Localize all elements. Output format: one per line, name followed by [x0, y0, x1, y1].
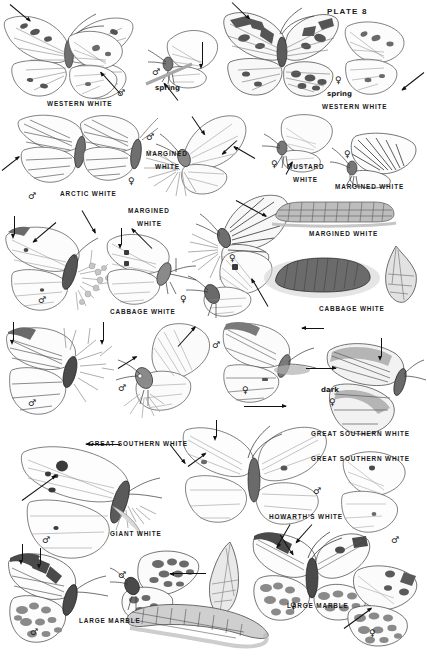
- species-label: GREAT SOUTHERN WHITE: [311, 455, 410, 462]
- figure-great-southern-white-female: [216, 320, 332, 410]
- sex-symbol-male: ♂: [117, 89, 125, 98]
- sex-symbol-male: ♂: [118, 384, 126, 393]
- species-label: ARCTIC WHITE: [60, 190, 117, 197]
- sex-symbol-male: ♂: [28, 192, 36, 201]
- species-label: GIANT WHITE: [110, 530, 162, 537]
- leader-arrow-down: [121, 228, 122, 244]
- figure-great-southern-white-dark-female: [320, 330, 426, 440]
- species-label: WHITE: [137, 220, 162, 227]
- sex-symbol-male: ♂: [152, 68, 160, 77]
- figure-great-southern-white-male-on-flower: [4, 320, 114, 420]
- species-label: LARGE MARBLE: [79, 617, 141, 624]
- species-label: MARGINED WHITE: [335, 183, 404, 190]
- form-label: dark: [321, 386, 339, 394]
- sex-symbol-female: ♀: [229, 254, 236, 263]
- sex-symbol-male: ♂: [42, 536, 50, 545]
- sex-symbol-male: ♂: [30, 628, 38, 637]
- species-label: GREAT SOUTHERN WHITE: [311, 430, 410, 437]
- sex-symbol-male: ♂: [118, 571, 126, 580]
- species-label: MARGINED: [146, 150, 188, 157]
- leader-arrow-down: [202, 42, 203, 64]
- form-label: spring: [155, 84, 180, 92]
- figure-great-southern-white-male-ventral: [110, 320, 220, 420]
- leader-line: [244, 406, 286, 407]
- species-label: WESTERN WHITE: [47, 100, 112, 107]
- sex-symbol-female: ♀: [180, 295, 187, 304]
- species-label: WHITE: [293, 176, 318, 183]
- sex-symbol-male: ♂: [391, 536, 399, 545]
- species-label: HOWARTH'S WHITE: [269, 513, 343, 520]
- leader-line: [302, 328, 324, 329]
- sex-symbol-female: ♀: [344, 150, 351, 159]
- leader-arrow-down: [40, 548, 41, 564]
- figure-margined-white-right: [330, 130, 422, 190]
- form-label: spring: [327, 90, 352, 98]
- sex-symbol-female: ♀: [128, 177, 135, 186]
- leader-arrow-down: [22, 544, 23, 560]
- sex-symbol-female: ♀: [369, 629, 376, 638]
- sex-symbol-male: ♂: [212, 341, 220, 350]
- figure-giant-white-male: [16, 440, 176, 560]
- species-label: MUSTARD: [287, 163, 324, 170]
- sex-symbol-male: ♂: [313, 487, 321, 496]
- sex-symbol-female: ♀: [242, 386, 249, 395]
- leader-arrow-down: [216, 420, 217, 436]
- sex-symbol-female: ♀: [271, 160, 278, 169]
- leader-line: [306, 368, 336, 369]
- figure-large-marble-female-ventral: [344, 562, 427, 652]
- figure-cabbage-white-pupa-larva: [262, 244, 382, 302]
- species-label: WESTERN WHITE: [322, 103, 387, 110]
- leader-line: [170, 573, 206, 574]
- leader-arrow-down: [381, 338, 382, 356]
- field-guide-plate: PLATE 8: [0, 0, 427, 672]
- sex-symbol-male: ♂: [38, 296, 46, 305]
- sex-symbol-female: ♀: [329, 398, 336, 407]
- species-label: CABBAGE WHITE: [110, 308, 176, 315]
- leader-arrow-down: [14, 216, 15, 234]
- leader-arrow-down: [103, 322, 104, 340]
- sex-symbol-female: ♀: [290, 602, 297, 611]
- species-label: WHITE: [155, 163, 180, 170]
- species-label: GREAT SOUTHERN WHITE: [89, 440, 188, 447]
- species-label: MARGINED WHITE: [309, 230, 378, 237]
- figure-margined-white-larva: [270, 196, 398, 228]
- figure-cabbage-white-chrysalis: [382, 244, 422, 306]
- leader-arrow-down: [13, 322, 14, 340]
- species-label: MARGINED: [128, 207, 170, 214]
- sex-symbol-female: ♀: [335, 76, 342, 85]
- figure-western-white-female-dorsal: [222, 4, 342, 104]
- species-label: CABBAGE WHITE: [319, 305, 385, 312]
- sex-symbol-male: ♂: [28, 399, 36, 408]
- sex-symbol-male: ♂: [146, 133, 154, 142]
